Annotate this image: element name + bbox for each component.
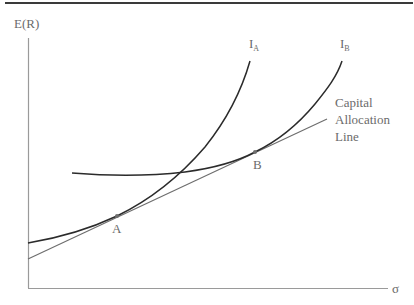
curve-ib-label: IB xyxy=(340,36,350,53)
point-a-label: A xyxy=(112,221,122,236)
curve-ia xyxy=(28,61,250,243)
point-b-label: B xyxy=(253,157,262,172)
point-a-marker xyxy=(115,214,119,218)
indifference-curve-b: IB xyxy=(72,36,350,175)
axes: E(R) σ xyxy=(14,16,399,296)
cal-line xyxy=(28,119,327,259)
diagram-canvas: E(R) σ Capital Allocation Line IA IB A B xyxy=(0,0,414,305)
x-axis-label: σ xyxy=(392,281,399,296)
capital-allocation-line: Capital Allocation Line xyxy=(28,95,390,259)
curve-ib xyxy=(72,61,342,175)
cal-label-line-1: Capital xyxy=(335,95,373,110)
indifference-curve-a: IA xyxy=(28,36,259,243)
curve-ia-label: IA xyxy=(249,36,259,53)
point-b-marker xyxy=(253,150,257,154)
cal-label-line-2: Allocation xyxy=(335,112,390,127)
cal-label-line-3: Line xyxy=(335,129,359,144)
y-axis-label: E(R) xyxy=(14,16,39,31)
point-b: B xyxy=(253,150,262,172)
